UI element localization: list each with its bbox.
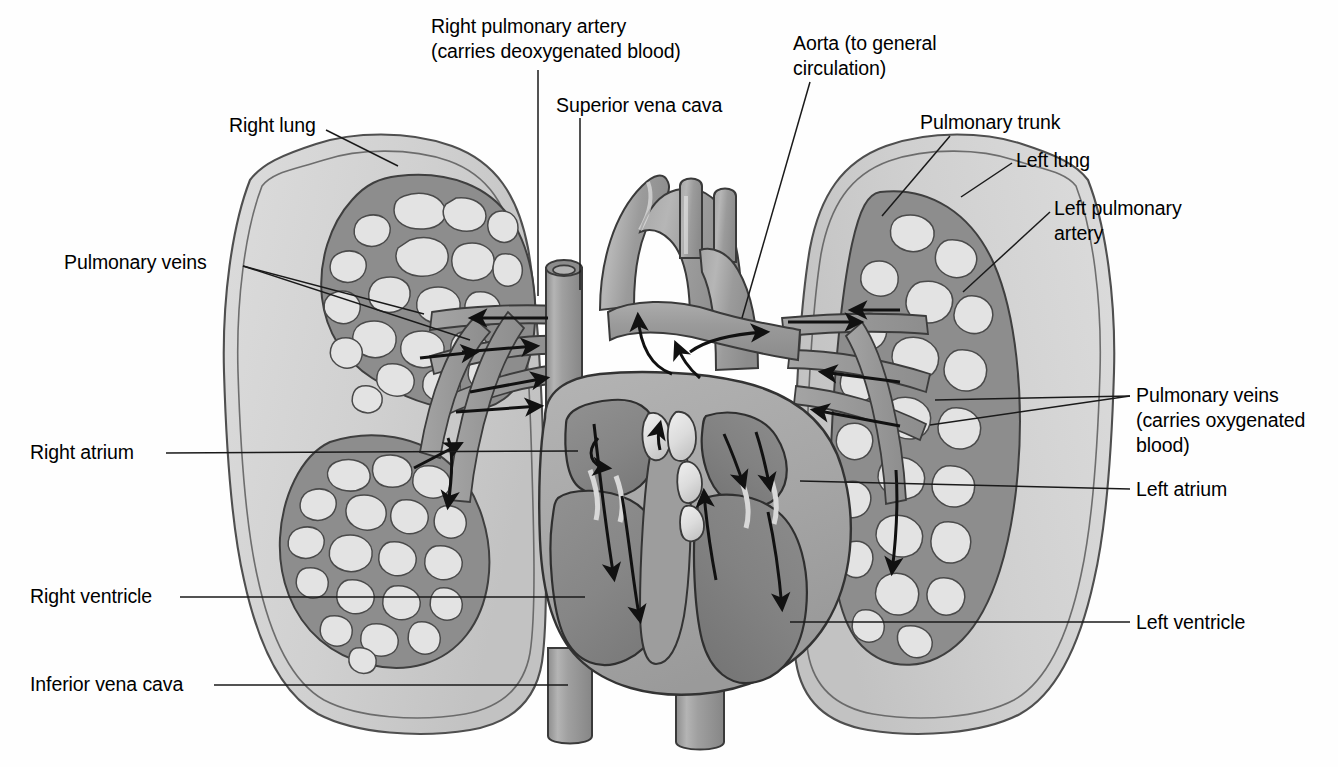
label-left-atrium: Left atrium — [1136, 477, 1227, 502]
label-pulmonary-trunk: Pulmonary trunk — [920, 110, 1060, 135]
pulmonary-trunk — [608, 302, 800, 360]
label-right-ventricle: Right ventricle — [30, 584, 152, 609]
label-line: Left atrium — [1136, 477, 1227, 502]
label-line: Pulmonary trunk — [920, 110, 1060, 135]
leader-aorta — [742, 82, 810, 318]
label-inferior-vena-cava: Inferior vena cava — [30, 672, 183, 697]
label-line: blood) — [1136, 433, 1305, 458]
label-line: Left pulmonary — [1054, 196, 1182, 221]
label-line: Superior vena cava — [556, 93, 722, 118]
label-left-lung: Left lung — [1016, 148, 1090, 173]
label-aorta: Aorta (to generalcirculation) — [793, 31, 937, 81]
label-line: Right ventricle — [30, 584, 152, 609]
label-line: Right atrium — [30, 440, 134, 465]
label-line: Left ventricle — [1136, 610, 1245, 635]
heart-group — [539, 372, 851, 695]
label-line: circulation) — [793, 56, 937, 81]
label-left-ventricle: Left ventricle — [1136, 610, 1245, 635]
label-line: Pulmonary veins — [64, 250, 207, 275]
arrow-rv-to-pulmonary-valve — [659, 424, 661, 450]
label-line: Right lung — [229, 113, 316, 138]
aortic-arch-left-branch — [600, 176, 669, 310]
svc-lumen — [553, 265, 575, 274]
aortic-branch-middle — [680, 179, 702, 259]
figure-canvas: Right pulmonary artery(carries deoxygena… — [0, 0, 1338, 767]
label-superior-vena-cava: Superior vena cava — [556, 93, 722, 118]
label-right-pulmonary-artery: Right pulmonary artery(carries deoxygena… — [431, 14, 681, 64]
label-line: Left lung — [1016, 148, 1090, 173]
label-line: artery — [1054, 221, 1182, 246]
label-line: Aorta (to general — [793, 31, 937, 56]
label-right-lung: Right lung — [229, 113, 316, 138]
label-line: Right pulmonary artery — [431, 14, 681, 39]
label-pulmonary-veins-oxygenated: Pulmonary veins(carries oxygenatedblood) — [1136, 383, 1305, 458]
label-line: (carries oxygenated — [1136, 408, 1305, 433]
label-pulmonary-veins-left-label: Pulmonary veins — [64, 250, 207, 275]
label-left-pulmonary-artery: Left pulmonaryartery — [1054, 196, 1182, 246]
label-right-atrium: Right atrium — [30, 440, 134, 465]
label-line: Pulmonary veins — [1136, 383, 1305, 408]
label-line: Inferior vena cava — [30, 672, 183, 697]
label-line: (carries deoxygenated blood) — [431, 39, 681, 64]
